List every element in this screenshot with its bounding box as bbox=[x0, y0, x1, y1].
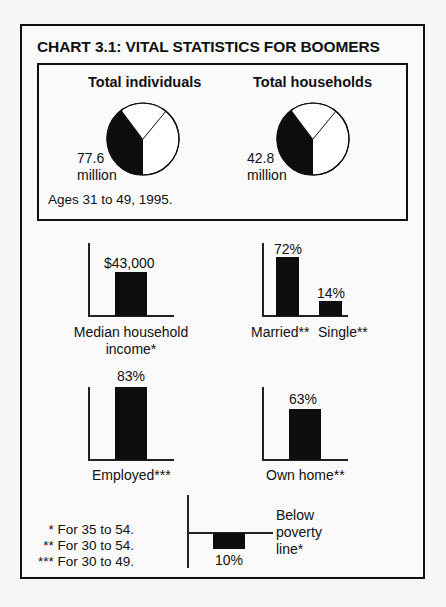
poverty-value-label: 10% bbox=[215, 552, 243, 568]
own-home-y-axis bbox=[262, 387, 264, 460]
single-label: Single** bbox=[318, 324, 368, 340]
married-bar bbox=[276, 257, 299, 316]
employed-label: Employed*** bbox=[92, 467, 171, 483]
own-home-value-label: 63% bbox=[289, 391, 317, 407]
employed-value-label: 83% bbox=[117, 368, 145, 384]
married-label: Married** bbox=[251, 324, 309, 340]
poverty-label-line1: Below bbox=[276, 507, 314, 523]
pie-individuals-title: Total individuals bbox=[88, 74, 201, 90]
single-bar bbox=[319, 301, 342, 316]
own-home-label: Own home** bbox=[266, 467, 345, 483]
income-bar bbox=[115, 272, 147, 316]
footnote-1: * For 35 to 54. bbox=[48, 522, 134, 538]
income-label-line1: Median household bbox=[66, 324, 196, 340]
chart-title: CHART 3.1: VITAL STATISTICS FOR BOOMERS bbox=[37, 38, 380, 56]
pie-note: Ages 31 to 49, 1995. bbox=[48, 192, 173, 208]
income-label-line2: income* bbox=[66, 341, 196, 357]
poverty-bar bbox=[213, 533, 245, 549]
married-value-label: 72% bbox=[274, 241, 302, 257]
marital-y-axis bbox=[262, 243, 264, 316]
own-home-bar bbox=[289, 409, 321, 460]
pie-households-value: 42.8 bbox=[247, 150, 274, 166]
pie-individuals-unit: million bbox=[77, 167, 117, 183]
footnote-2: ** For 30 to 54. bbox=[43, 538, 134, 554]
pie-households-title: Total households bbox=[253, 74, 372, 90]
pie-individuals-value: 77.6 bbox=[77, 150, 104, 166]
footnote-3: *** For 30 to 49. bbox=[38, 554, 134, 570]
poverty-label-line3: line* bbox=[276, 541, 303, 557]
employed-bar bbox=[115, 387, 147, 460]
pie-households-unit: million bbox=[247, 167, 287, 183]
single-value-label: 14% bbox=[317, 285, 345, 301]
income-y-axis bbox=[88, 243, 90, 316]
income-value-label: $43,000 bbox=[104, 255, 155, 271]
employed-y-axis bbox=[88, 387, 90, 460]
poverty-label-line2: poverty bbox=[276, 524, 322, 540]
